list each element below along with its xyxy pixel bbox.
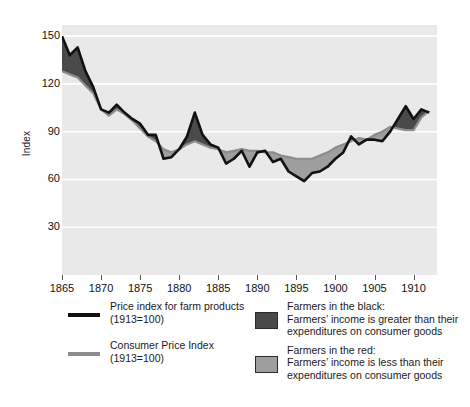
legend-label-farm-price-index: Price index for farm products (1913=100) [110,300,263,325]
x-axis-tickmark-1875 [140,275,141,280]
y-axis-tick-60: 60 [32,173,60,184]
x-axis-tickmark-1910 [414,275,415,280]
chart-plot-svg [62,25,437,275]
legend-label-line2: Farmers’ income is greater than their [287,313,467,326]
legend-series-column: Price index for farm products (1913=100)… [68,300,263,378]
legend-label-line1: Consumer Price Index [110,339,214,351]
x-axis-tickmark-1905 [375,275,376,280]
area-farmers-in-the-red [159,111,429,181]
x-axis-tick-1910: 1910 [394,283,434,294]
x-axis-tick-1900: 1900 [315,283,355,294]
legend-item-farmers-in-the-black: Farmers in the black: Farmers’ income is… [255,300,467,338]
legend-item-farm-price-index: Price index for farm products (1913=100) [68,300,263,325]
x-axis-tickmark-1870 [101,275,102,280]
legend-label-line2: (1913=100) [110,352,263,365]
x-axis-tickmark-1880 [179,275,180,280]
legend-label-line1: Farmers in the red: [287,344,376,356]
x-axis-tickmark-1900 [335,275,336,280]
x-axis-tick-labels: 1865187018751880188518901895190019051910 [0,275,470,300]
y-axis-tick-150: 150 [32,30,60,41]
x-axis-tick-1880: 1880 [159,283,199,294]
legend-regions-column: Farmers in the black: Farmers’ income is… [255,300,467,387]
x-axis-tick-1865: 1865 [42,283,82,294]
plot-panel [62,25,437,275]
x-axis-tickmark-1885 [218,275,219,280]
x-axis-tickmark-1865 [62,275,63,280]
legend-label-farmers-in-the-red: Farmers in the red: Farmers’ income is l… [287,344,467,382]
x-axis-tick-1890: 1890 [237,283,277,294]
legend-line-swatch-gray [68,352,100,356]
x-axis-tick-1885: 1885 [198,283,238,294]
x-axis-tick-1905: 1905 [355,283,395,294]
chart-figure: Index 306090120150 186518701875188018851… [0,0,470,407]
legend-label-line1: Farmers in the black: [287,300,385,312]
legend-label-line1: Price index for farm products [110,300,244,312]
legend-label-line2: Farmers’ income is less than their [287,356,467,369]
x-axis-tick-1895: 1895 [276,283,316,294]
legend-label-line3: expenditures on consumer goods [287,369,467,382]
x-axis-tick-1875: 1875 [120,283,160,294]
plot-region: Index 306090120150 186518701875188018851… [0,0,470,300]
x-axis-tickmark-1895 [296,275,297,280]
legend-item-farmers-in-the-red: Farmers in the red: Farmers’ income is l… [255,344,467,382]
legend-line-swatch-black [68,313,100,317]
legend-item-consumer-price-index: Consumer Price Index (1913=100) [68,339,263,364]
y-axis-tick-labels: 306090120150 [30,0,60,300]
legend-label-farmers-in-the-black: Farmers in the black: Farmers’ income is… [287,300,467,338]
x-axis-tickmark-1890 [257,275,258,280]
chart-legend: Price index for farm products (1913=100)… [0,300,470,407]
legend-box-swatch-light [255,356,278,373]
y-axis-tick-120: 120 [32,78,60,89]
y-axis-tick-90: 90 [32,126,60,137]
legend-label-line2: (1913=100) [110,313,263,326]
legend-box-swatch-dark [255,312,278,329]
x-axis-tick-1870: 1870 [81,283,121,294]
legend-label-consumer-price-index: Consumer Price Index (1913=100) [110,339,263,364]
y-axis-tick-30: 30 [32,221,60,232]
legend-label-line3: expenditures on consumer goods [287,325,467,338]
